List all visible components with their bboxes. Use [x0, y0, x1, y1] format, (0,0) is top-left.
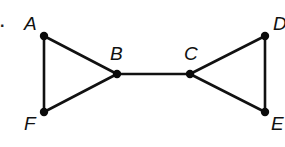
edge-c-d: [190, 36, 265, 74]
node-label-a: A: [23, 13, 37, 34]
edge-f-b: [44, 74, 117, 112]
node-d: [261, 32, 269, 40]
node-e: [261, 108, 269, 116]
node-label-b: B: [110, 43, 123, 64]
problem-number-marker: .: [0, 13, 4, 30]
node-b: [113, 70, 121, 78]
edges-group: [44, 36, 265, 112]
node-f: [40, 108, 48, 116]
node-label-d: D: [273, 13, 285, 34]
node-label-f: F: [24, 113, 37, 134]
edge-a-b: [44, 36, 117, 74]
node-label-c: C: [184, 43, 198, 64]
edge-c-e: [190, 74, 265, 112]
graph-diagram: . ABCDEF: [0, 0, 285, 147]
node-a: [40, 32, 48, 40]
node-c: [186, 70, 194, 78]
node-label-e: E: [271, 113, 284, 134]
